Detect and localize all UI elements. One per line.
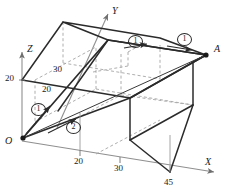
z-axis-label: Z	[27, 44, 33, 54]
path-marker-1-right: 1	[177, 33, 192, 46]
path-marker-1-top: 1	[128, 35, 143, 48]
path-marker-1-origin: 1	[31, 103, 46, 116]
path2-segment-rise	[130, 55, 206, 98]
dimension-top-20: 20	[42, 85, 51, 94]
dimension-top-30: 30	[53, 65, 62, 74]
diagram-svg	[0, 0, 226, 194]
hidden-edge-base-right	[96, 89, 193, 105]
hidden-guide-diag-c	[96, 120, 160, 154]
hidden-guide-floorline	[93, 66, 128, 72]
origin-label: O	[5, 136, 12, 146]
point-a-label: A	[214, 44, 220, 54]
point-a-dot	[203, 52, 208, 57]
prism-bottom-front-leg	[130, 140, 170, 172]
path1-segment-top	[108, 40, 206, 55]
dimension-z-20: 20	[5, 74, 14, 83]
x-axis-label: X	[205, 157, 211, 167]
path-marker-2-origin: 2	[66, 121, 81, 134]
figure-container: X Y Z O A 20 30 20 20 30 45 1 2 1 1	[0, 0, 226, 194]
dimension-base-45: 45	[164, 178, 173, 187]
prism-left-front-slope	[58, 40, 108, 111]
y-axis-label: Y	[112, 6, 118, 16]
hidden-guide-mid	[63, 63, 160, 79]
prism-left-horizontal	[22, 80, 130, 98]
dimension-base-20: 20	[74, 157, 83, 166]
path-chord-o-to-a	[23, 55, 206, 138]
origin-dot	[20, 135, 25, 140]
dimension-base-30: 30	[114, 164, 123, 173]
